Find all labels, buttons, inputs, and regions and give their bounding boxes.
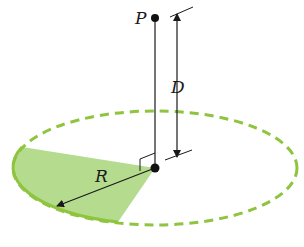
diagram-canvas: P D R [0, 0, 304, 247]
shaded-sector [13, 147, 155, 222]
point-P-dot [151, 14, 159, 22]
label-R: R [94, 166, 108, 186]
top-tick-line [170, 7, 193, 17]
bottom-tick-line [165, 150, 192, 160]
label-D: D [170, 77, 185, 97]
center-dot [151, 164, 160, 173]
label-P: P [134, 8, 147, 28]
